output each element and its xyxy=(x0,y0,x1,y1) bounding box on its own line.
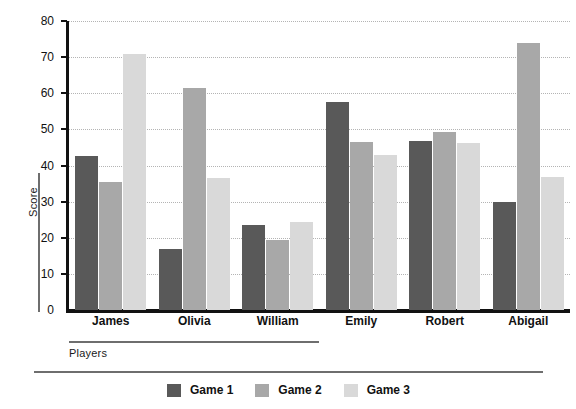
bar[interactable] xyxy=(409,141,432,310)
bars-layer xyxy=(69,21,570,310)
y-axis-ticks: 01020304050607080 xyxy=(28,0,54,409)
legend-item[interactable]: Game 2 xyxy=(255,383,321,397)
y-axis-tick-label: 60 xyxy=(28,86,54,100)
bar[interactable] xyxy=(457,143,480,310)
legend-divider xyxy=(34,371,543,373)
bar[interactable] xyxy=(123,54,146,310)
x-axis-category-label: James xyxy=(69,314,153,328)
legend-swatch-icon xyxy=(255,384,269,397)
x-axis-category-label: Olivia xyxy=(153,314,237,328)
x-axis-category-label: Emily xyxy=(320,314,404,328)
legend-label: Game 3 xyxy=(367,383,410,397)
chart-legend: Game 1Game 2Game 3 xyxy=(34,380,543,400)
bar[interactable] xyxy=(159,249,182,310)
bar[interactable] xyxy=(326,102,349,310)
bar[interactable] xyxy=(183,88,206,310)
x-axis-category-labels: JamesOliviaWilliamEmilyRobertAbigail xyxy=(69,314,570,334)
bar[interactable] xyxy=(75,156,98,310)
y-axis-tick-label: 0 xyxy=(28,303,54,317)
bar-group xyxy=(409,21,480,310)
bar-chart: Score 01020304050607080 JamesOliviaWilli… xyxy=(0,0,576,409)
bar-group xyxy=(159,21,230,310)
bar-group xyxy=(75,21,146,310)
y-axis-tick-label: 70 xyxy=(28,50,54,64)
bar[interactable] xyxy=(242,225,265,310)
y-axis-tick-label: 30 xyxy=(28,195,54,209)
bar[interactable] xyxy=(433,132,456,310)
x-axis-category-label: Abigail xyxy=(487,314,571,328)
bar[interactable] xyxy=(541,177,564,310)
legend-swatch-icon xyxy=(344,384,358,397)
bar-group xyxy=(326,21,397,310)
y-axis-tick-label: 10 xyxy=(28,267,54,281)
bar[interactable] xyxy=(266,240,289,310)
bar[interactable] xyxy=(290,222,313,311)
y-axis-tick-label: 80 xyxy=(28,14,54,28)
legend-swatch-icon xyxy=(167,384,181,397)
legend-label: Game 1 xyxy=(190,383,233,397)
legend-item[interactable]: Game 1 xyxy=(167,383,233,397)
bar[interactable] xyxy=(350,142,373,310)
x-axis-title-rule xyxy=(69,341,319,343)
legend-label: Game 2 xyxy=(278,383,321,397)
bar[interactable] xyxy=(207,178,230,310)
bar[interactable] xyxy=(99,182,122,310)
bar[interactable] xyxy=(374,155,397,310)
y-axis-tick-label: 40 xyxy=(28,159,54,173)
x-axis-title: Players xyxy=(69,347,107,359)
y-axis-tick-label: 50 xyxy=(28,122,54,136)
plot-area xyxy=(69,21,570,310)
bar[interactable] xyxy=(493,202,516,310)
x-axis-category-label: Robert xyxy=(403,314,487,328)
bar-group xyxy=(242,21,313,310)
y-axis-tick-label: 20 xyxy=(28,231,54,245)
x-axis-category-label: William xyxy=(236,314,320,328)
legend-item[interactable]: Game 3 xyxy=(344,383,410,397)
bar-group xyxy=(493,21,564,310)
bar[interactable] xyxy=(517,43,540,310)
